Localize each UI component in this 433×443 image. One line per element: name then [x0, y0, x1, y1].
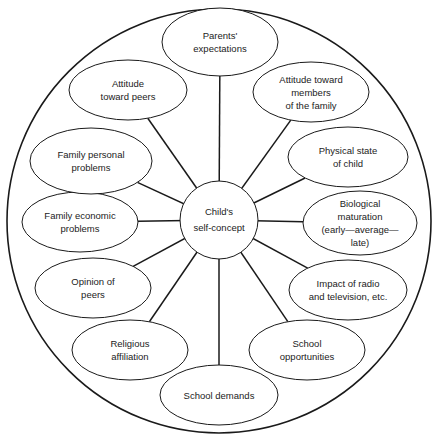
node-label-attitude-toward-peers: Attitude toward peers: [69, 60, 187, 120]
node-label-family-personal-problems: Family personal problems: [30, 128, 152, 194]
node-label-impact-radio-television: Impact of radio and television, etc.: [289, 260, 407, 320]
node-label-family-economic-problems: Family economic problems: [22, 192, 138, 252]
center-node-label: Child's self-concept: [180, 181, 258, 259]
node-label-opinion-of-peers: Opinion of peers: [35, 258, 151, 318]
node-label-attitude-toward-members-family: Attitude toward members of the family: [253, 62, 369, 122]
node-label-physical-state-child: Physical state of child: [288, 127, 408, 187]
node-label-religious-affiliation: Religious affiliation: [72, 320, 188, 380]
node-label-biological-maturation: Biological maturation (early—average— la…: [303, 191, 417, 255]
